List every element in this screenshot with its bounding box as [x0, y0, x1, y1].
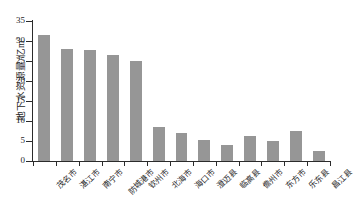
x-axis-tick — [330, 162, 331, 166]
bar — [61, 49, 73, 161]
y-axis-tick-label-wrap: 20 — [0, 76, 25, 86]
x-axis-tick — [193, 162, 194, 166]
y-axis-tick-label: 5 — [1, 136, 25, 145]
y-axis-tick — [26, 81, 32, 82]
x-axis-tick — [284, 162, 285, 166]
x-axis-tick-label: 南宁市 — [102, 168, 125, 191]
y-axis-tick-label-wrap: 15 — [0, 96, 25, 106]
bar — [107, 55, 119, 161]
y-axis-tick — [26, 141, 32, 142]
bar — [221, 145, 233, 161]
bar — [153, 127, 165, 161]
y-axis-tick-label-wrap: 25 — [0, 56, 25, 66]
bar — [313, 151, 325, 161]
y-axis-tick-label-wrap: 30 — [0, 36, 25, 46]
y-axis-tick — [26, 21, 32, 22]
x-axis-tick — [147, 162, 148, 166]
x-axis-tick-label: 儋州市 — [262, 168, 285, 191]
y-axis-tick — [26, 121, 32, 122]
x-axis-tick-label: 茂名市 — [56, 168, 79, 191]
x-axis-tick — [261, 162, 262, 166]
bar — [176, 133, 188, 161]
x-axis-tick-label: 东方市 — [285, 168, 308, 191]
y-axis-tick-label: 10 — [1, 116, 25, 125]
x-axis-tick-label: 乐东县 — [308, 168, 331, 191]
y-axis-tick-label-wrap: 0 — [0, 156, 25, 166]
x-axis-tick — [56, 162, 57, 166]
x-axis-tick — [79, 162, 80, 166]
x-axis-tick — [33, 162, 34, 166]
y-axis-tick — [26, 161, 32, 162]
bar — [130, 61, 142, 161]
y-axis-tick-label: 15 — [1, 96, 25, 105]
y-axis-tick-label: 20 — [1, 76, 25, 85]
x-axis-tick-label: 海口市 — [194, 168, 217, 191]
x-axis-tick-label: 澄迈县 — [216, 168, 239, 191]
bar — [267, 141, 279, 161]
plot-area — [33, 21, 330, 161]
x-axis-tick-label: 湛江市 — [79, 168, 102, 191]
y-axis-tick-label: 0 — [1, 156, 25, 165]
x-axis-tick — [216, 162, 217, 166]
y-axis-tick-label: 30 — [1, 36, 25, 45]
bar — [244, 136, 256, 161]
x-axis-tick — [170, 162, 171, 166]
y-axis-tick — [26, 61, 32, 62]
x-axis-tick-label: 昌江县 — [331, 168, 353, 191]
bar — [290, 131, 302, 161]
y-axis-tick — [26, 41, 32, 42]
x-axis-tick-label: 临高县 — [239, 168, 262, 191]
y-axis-tick — [26, 101, 32, 102]
x-axis-line — [32, 161, 331, 162]
x-axis-tick — [102, 162, 103, 166]
y-axis-tick-label: 35 — [1, 16, 25, 25]
bar — [38, 35, 50, 161]
x-axis-tick — [307, 162, 308, 166]
y-axis-tick-label-wrap: 35 — [0, 16, 25, 26]
bar — [84, 50, 96, 161]
y-axis-tick-label-wrap: 10 — [0, 116, 25, 126]
y-axis-tick-label-wrap: 5 — [0, 136, 25, 146]
x-axis-tick-label: 北海市 — [171, 168, 194, 191]
x-axis-tick — [239, 162, 240, 166]
y-axis-tick-label: 25 — [1, 56, 25, 65]
bar — [198, 140, 210, 161]
x-axis-tick — [124, 162, 125, 166]
